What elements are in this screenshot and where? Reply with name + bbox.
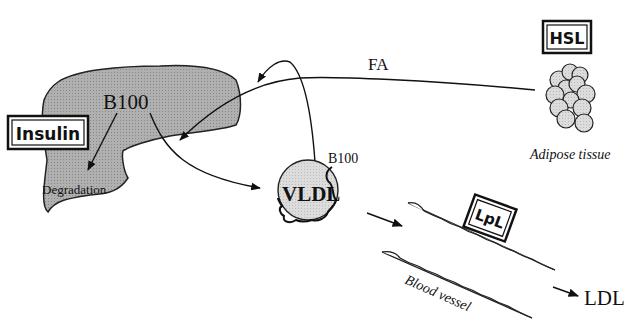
ldl-label: LDL xyxy=(584,286,625,310)
adipose-tissue-label: Adipose tissue xyxy=(529,147,611,162)
degradation-label: Degradation xyxy=(42,182,107,197)
vldl-b100-label: B100 xyxy=(328,151,358,166)
vldl-label: VLDL xyxy=(282,182,340,206)
insulin-box: Insulin xyxy=(8,116,88,149)
insulin-label: Insulin xyxy=(16,124,80,144)
arrow-vessel-to-ldl xyxy=(553,287,578,296)
diagram-canvas: B100 Degradation Insulin FA HSL Adipose … xyxy=(0,0,644,332)
hsl-label: HSL xyxy=(549,29,584,48)
liver-b100-label: B100 xyxy=(103,90,149,114)
arrow-vldl-to-liver xyxy=(258,61,315,162)
fa-label: FA xyxy=(368,55,389,74)
blood-vessel-label: Blood vessel xyxy=(403,272,473,314)
arrow-vldl-to-vessel xyxy=(367,213,402,226)
hsl-box: HSL xyxy=(543,21,591,53)
adipose-cluster-icon xyxy=(546,64,595,132)
lpl-box: LpL xyxy=(464,195,517,242)
